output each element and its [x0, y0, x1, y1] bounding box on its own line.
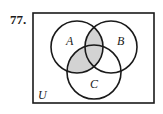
label-a: A	[65, 34, 74, 48]
label-u: U	[38, 88, 48, 102]
label-b: B	[117, 34, 125, 48]
venn-diagram: A B C U	[0, 0, 163, 114]
shaded-region	[67, 21, 137, 99]
label-c: C	[90, 77, 99, 91]
